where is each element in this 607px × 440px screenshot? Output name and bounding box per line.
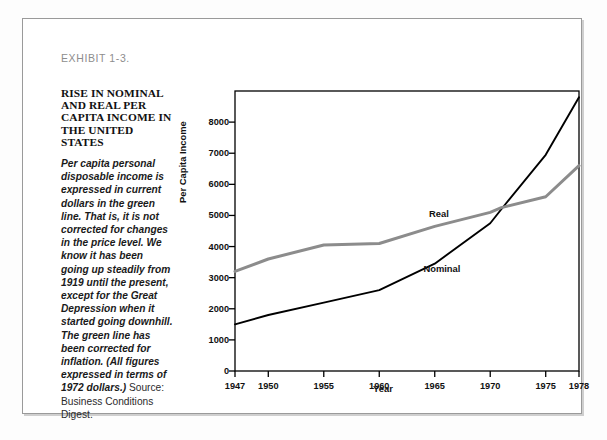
series-label-real: Real: [429, 208, 449, 219]
exhibit-frame: EXHIBIT 1-3. RISE IN NOMINAL AND REAL PE…: [22, 18, 582, 414]
exhibit-text-column: RISE IN NOMINAL AND REAL PER CAPITA INCO…: [61, 87, 173, 421]
exhibit-body-text: Per capita personal disposable income is…: [61, 157, 173, 421]
income-line-chart: Per Capita Income Year 01000200030004000…: [183, 83, 583, 403]
plot-area: [183, 83, 583, 403]
exhibit-label: EXHIBIT 1-3.: [61, 52, 130, 64]
series-label-nominal: Nominal: [423, 263, 460, 274]
exhibit-page: EXHIBIT 1-3. RISE IN NOMINAL AND REAL PE…: [0, 0, 607, 440]
exhibit-headline: RISE IN NOMINAL AND REAL PER CAPITA INCO…: [61, 87, 173, 148]
exhibit-body-italic: Per capita personal disposable income is…: [61, 158, 173, 393]
